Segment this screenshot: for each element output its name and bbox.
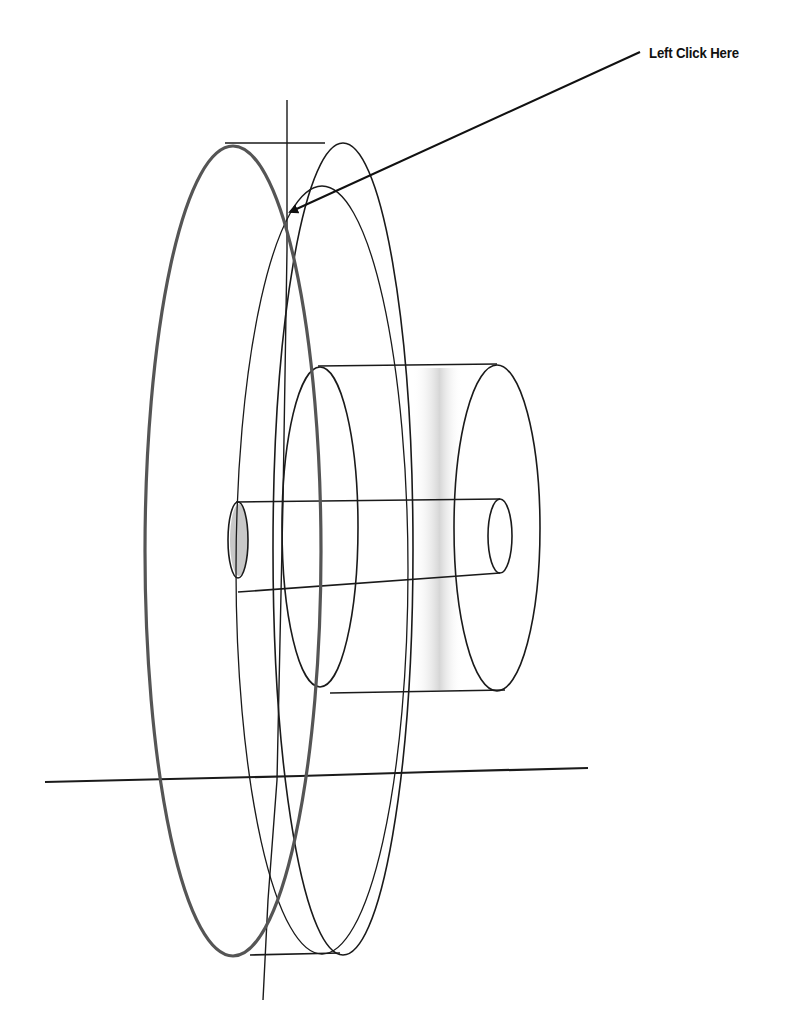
hub-back-edge[interactable] [454, 365, 540, 691]
callout-arrow [290, 52, 640, 212]
hub-bottom-edge [330, 690, 505, 693]
horizontal-axis [45, 768, 588, 782]
shaft-back-edge[interactable] [488, 499, 512, 573]
cad-viewport[interactable] [0, 0, 785, 1035]
hub-top-edge [318, 364, 497, 366]
callout-label: Left Click Here [649, 44, 739, 61]
